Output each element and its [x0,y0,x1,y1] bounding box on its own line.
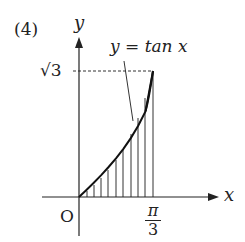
x-tick-pi-over-3: π 3 [145,203,161,238]
y-tick-sqrt3: √3 [40,60,62,80]
x-axis-arrow-icon [208,193,219,201]
y-axis-label: y [74,12,84,33]
curve-label: y = tan x [110,36,188,56]
y-axis-arrow-icon [75,37,83,48]
x-tick-numerator: π [145,203,161,219]
curve-label-leader [124,61,133,121]
origin-label: O [60,206,74,226]
problem-number: (4) [14,19,38,39]
x-tick-denominator: 3 [145,222,161,238]
x-axis-label: x [224,184,234,205]
